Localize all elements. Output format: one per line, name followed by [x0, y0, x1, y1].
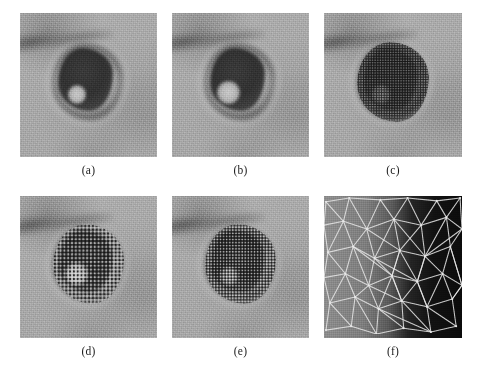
- figure-root: (a) (b): [0, 0, 480, 371]
- micrograph-e: [172, 196, 309, 338]
- film-grain: [20, 196, 157, 338]
- panel-caption-f: (f): [324, 346, 462, 358]
- panel-cell-a: (a): [20, 13, 157, 180]
- micrograph-b: [172, 13, 309, 157]
- panel-caption-a: (a): [20, 165, 157, 177]
- panel-image-a: [20, 13, 157, 157]
- panel-cell-e: (e): [172, 196, 309, 358]
- panel-cell-c: (c): [324, 13, 462, 180]
- panel-cell-f: (f): [324, 196, 462, 358]
- panel-image-b: [172, 13, 309, 157]
- panel-cell-d: (d): [20, 196, 157, 358]
- panel-grid: (a) (b): [20, 13, 462, 358]
- panel-caption-c: (c): [324, 165, 462, 177]
- panel-caption-d: (d): [20, 346, 157, 358]
- film-grain: [172, 196, 309, 338]
- film-grain: [172, 13, 309, 157]
- panel-caption-e: (e): [172, 346, 309, 358]
- micrograph-c: [324, 13, 462, 157]
- panel-image-e: [172, 196, 309, 338]
- film-grain: [20, 13, 157, 157]
- triangulation-mesh: [324, 196, 462, 338]
- panel-caption-b: (b): [172, 165, 309, 177]
- panel-image-f: [324, 196, 462, 338]
- panel-cell-b: (b): [172, 13, 309, 180]
- panel-image-c: [324, 13, 462, 157]
- panel-image-d: [20, 196, 157, 338]
- film-grain: [324, 13, 462, 157]
- mesh-svg: [324, 196, 462, 334]
- micrograph-d: [20, 196, 157, 338]
- micrograph-a: [20, 13, 157, 157]
